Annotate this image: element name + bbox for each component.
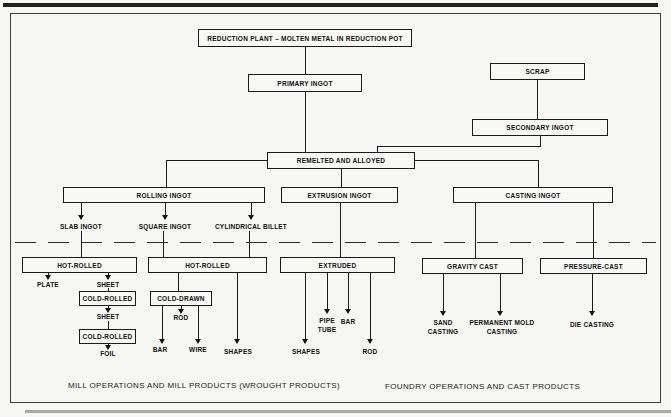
- connector: [377, 146, 378, 152]
- arrow-down-icon: [367, 339, 373, 344]
- arrow-down-icon: [248, 215, 254, 220]
- node-gravity-cast: GRAVITY CAST: [422, 258, 523, 274]
- node-label: EXTRUDED: [319, 262, 357, 269]
- connector: [81, 231, 82, 257]
- flowchart-canvas: REDUCTION PLANT – MOLTEN METAL IN REDUCT…: [0, 0, 671, 417]
- connector: [165, 203, 166, 215]
- arrow-down-icon: [324, 309, 330, 314]
- node-label: HOT-ROLLED: [185, 262, 230, 269]
- node-casting-ingot: CASTING INGOT: [453, 187, 613, 203]
- label-line: CASTING: [487, 328, 518, 335]
- node-hot-rolled-left: HOT-ROLLED: [22, 257, 137, 273]
- connector: [108, 321, 109, 329]
- label-shapes-drawn: SHAPES: [208, 347, 268, 356]
- connector: [249, 231, 250, 257]
- label-foil: FOIL: [83, 349, 133, 358]
- node-label: REDUCTION PLANT – MOLTEN METAL IN REDUCT…: [207, 35, 403, 42]
- connector: [377, 146, 541, 147]
- label-die-casting: DIE CASTING: [552, 320, 632, 329]
- arrow-down-icon: [497, 311, 503, 316]
- node-cold-drawn: COLD-DRAWN: [150, 291, 212, 306]
- node-cold-rolled-lower: COLD-ROLLED: [79, 329, 136, 344]
- node-label: SECONDARY INGOT: [506, 124, 573, 131]
- connector: [81, 203, 82, 215]
- label-permanent-mold-casting: PERMANENT MOLDCASTING: [452, 318, 552, 336]
- label-tube: TUBE: [318, 326, 337, 333]
- node-label: SCRAP: [525, 68, 549, 75]
- node-label: REMELTED AND ALLOYED: [297, 157, 386, 164]
- caption-mill-operations: MILL OPERATIONS AND MILL PRODUCTS (WROUG…: [68, 381, 340, 390]
- connector: [166, 160, 167, 187]
- connector: [340, 203, 341, 257]
- label-cylindrical-billet: CYLINDRICAL BILLET: [196, 222, 306, 231]
- node-label: COLD-DRAWN: [157, 295, 205, 302]
- connector: [237, 273, 238, 339]
- arrow-down-icon: [78, 215, 84, 220]
- node-extrusion-ingot: EXTRUSION INGOT: [281, 187, 398, 203]
- label-line: SAND: [433, 319, 452, 326]
- connector: [592, 274, 593, 311]
- connector: [443, 274, 444, 311]
- node-remelted-and-alloyed: REMELTED AND ALLOYED: [267, 152, 415, 169]
- arrow-down-icon: [234, 339, 240, 344]
- node-label: CASTING INGOT: [506, 192, 561, 199]
- bottom-rule: [25, 410, 671, 413]
- node-label: PRIMARY INGOT: [277, 80, 332, 87]
- label-sheet-hot: SHEET: [83, 280, 133, 289]
- node-label: GRAVITY CAST: [447, 263, 498, 270]
- label-plate: PLATE: [23, 280, 73, 289]
- connector: [251, 203, 252, 215]
- node-rolling-ingot: ROLLING INGOT: [63, 187, 265, 203]
- top-rule: [3, 3, 658, 7]
- arrow-down-icon: [440, 311, 446, 316]
- node-reduction-plant: REDUCTION PLANT – MOLTEN METAL IN REDUCT…: [198, 29, 412, 47]
- label-bar-extruded: BAR: [323, 317, 373, 326]
- connector: [370, 273, 371, 339]
- arrow-down-icon: [159, 339, 165, 344]
- node-secondary-ingot: SECONDARY INGOT: [472, 119, 608, 136]
- label-rod-drawn: ROD: [156, 313, 206, 322]
- connector: [163, 231, 164, 257]
- arrow-down-icon: [195, 339, 201, 344]
- label-shapes-extruded: SHAPES: [276, 347, 336, 356]
- connector: [537, 80, 538, 119]
- node-label: PRESSURE-CAST: [564, 263, 623, 270]
- connector: [415, 160, 538, 161]
- connector: [593, 203, 594, 258]
- node-cold-rolled-upper: COLD-ROLLED: [79, 291, 136, 306]
- node-hot-rolled-mid: HOT-ROLLED: [148, 257, 267, 273]
- connector: [305, 47, 306, 74]
- connector: [341, 169, 342, 187]
- node-pressure-cast: PRESSURE-CAST: [540, 258, 647, 274]
- connector: [540, 136, 541, 146]
- node-label: EXTRUSION INGOT: [307, 192, 371, 199]
- connector: [166, 160, 267, 161]
- arrow-down-icon: [345, 309, 351, 314]
- label-rod-extruded: ROD: [345, 347, 395, 356]
- node-label: HOT-ROLLED: [57, 262, 102, 269]
- arrow-down-icon: [162, 215, 168, 220]
- connector: [348, 273, 349, 309]
- arrow-down-icon: [589, 311, 595, 316]
- node-extruded: EXTRUDED: [280, 257, 395, 273]
- label-sheet-cold: SHEET: [83, 312, 133, 321]
- connector: [538, 160, 539, 187]
- connector: [475, 203, 476, 258]
- node-scrap: SCRAP: [490, 63, 585, 80]
- node-label: COLD-ROLLED: [82, 333, 132, 340]
- caption-foundry-operations: FOUNDRY OPERATIONS AND CAST PRODUCTS: [385, 382, 580, 391]
- node-primary-ingot: PRIMARY INGOT: [248, 74, 362, 92]
- node-label: ROLLING INGOT: [137, 192, 192, 199]
- connector: [198, 306, 199, 339]
- connector: [162, 306, 163, 339]
- label-slab-ingot: SLAB INGOT: [41, 222, 121, 231]
- connector: [305, 92, 306, 152]
- arrow-down-icon: [302, 339, 308, 344]
- connector: [327, 273, 328, 309]
- node-label: COLD-ROLLED: [82, 295, 132, 302]
- label-line: PERMANENT MOLD: [470, 319, 535, 326]
- dashed-divider: [15, 242, 656, 243]
- connector: [178, 273, 179, 291]
- connector: [500, 274, 501, 311]
